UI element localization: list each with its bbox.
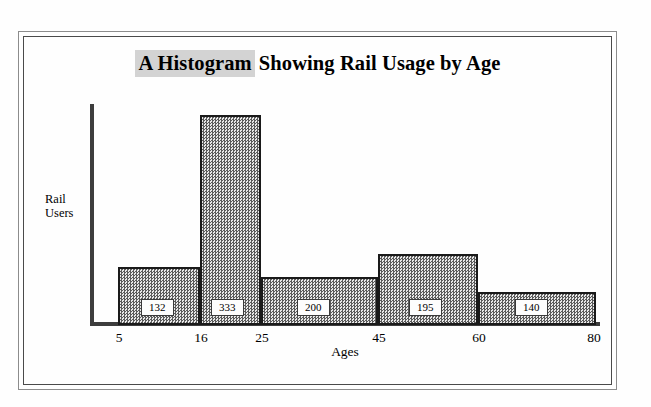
x-tick-label: 60 [464,330,494,346]
x-axis-label: Ages [90,344,600,360]
plot-area: Rail Users Ages 132 333 200 195 140 5 16… [0,0,651,407]
figure-page: A HistogramShowing Rail Usage by Age Rai… [0,0,651,407]
y-axis-label-line2: Users [45,206,89,220]
x-tick-label: 80 [579,330,609,346]
y-axis-label: Rail Users [45,192,89,220]
x-tick-label: 45 [364,330,394,346]
x-tick-label: 25 [247,330,277,346]
y-axis-line [90,104,94,326]
bar-value-label: 200 [297,299,330,316]
y-axis-label-line1: Rail [45,192,89,206]
bar-value-label: 195 [409,299,442,316]
histogram-bar [118,267,200,325]
x-tick-label: 5 [104,330,134,346]
histogram-bar [200,115,261,325]
x-tick-label: 16 [186,330,216,346]
bar-value-label: 333 [211,299,244,316]
bar-value-label: 132 [141,299,174,316]
bar-value-label: 140 [515,299,548,316]
